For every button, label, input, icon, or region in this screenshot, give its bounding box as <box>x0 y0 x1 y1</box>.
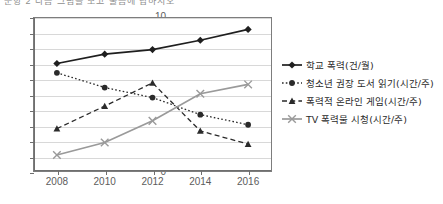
legend-item-3[interactable]: TV 폭력물 시청(시간/주) <box>281 110 441 127</box>
data-point-circle <box>245 122 251 128</box>
x-axis-label: 2008 <box>37 176 77 187</box>
data-point-diamond <box>245 26 252 33</box>
page-caption: 문항 2 다음 그림을 보고 물음에 답하시오 <box>4 0 204 6</box>
legend-label: TV 폭력물 시청(시간/주) <box>303 112 407 126</box>
x-axis-label: 2010 <box>85 176 125 187</box>
data-point-diamond <box>149 46 156 53</box>
legend-item-0[interactable]: 학교 폭력(건/월) <box>281 56 441 73</box>
data-point-triangle <box>245 141 252 147</box>
data-series-layer <box>33 17 272 172</box>
data-point-diamond <box>288 61 295 68</box>
data-point-triangle <box>149 79 156 85</box>
data-point-triangle <box>197 128 204 134</box>
data-point-circle <box>289 80 295 86</box>
series-line <box>57 83 248 144</box>
data-point-circle <box>54 70 60 76</box>
data-point-diamond <box>101 51 108 58</box>
data-point-triangle <box>101 103 108 109</box>
x-axis-label: 2014 <box>180 176 220 187</box>
chart-screenshot: 문항 2 다음 그림을 보고 물음에 답하시오 012345678910 200… <box>0 0 443 204</box>
legend-label: 청소년 권장 도서 읽기(시간/주) <box>303 76 434 90</box>
legend-marker-x-icon <box>281 112 303 126</box>
data-point-circle <box>102 85 108 91</box>
data-point-x <box>149 117 157 125</box>
legend-marker-triangle-icon <box>281 94 303 108</box>
data-point-triangle <box>54 125 61 131</box>
legend-item-1[interactable]: 청소년 권장 도서 읽기(시간/주) <box>281 74 441 91</box>
x-axis-label: 2016 <box>228 176 268 187</box>
legend-marker-diamond-icon <box>281 58 303 72</box>
series-1 <box>54 70 251 128</box>
chart-legend: 학교 폭력(건/월)청소년 권장 도서 읽기(시간/주)폭력적 온라인 게임(시… <box>281 56 441 128</box>
data-point-diamond <box>53 60 60 67</box>
legend-label: 학교 폭력(건/월) <box>303 58 374 72</box>
data-point-circle <box>197 112 203 118</box>
legend-label: 폭력적 온라인 게임(시간/주) <box>303 94 422 108</box>
legend-marker-circle-icon <box>281 76 303 90</box>
y-axis-tick <box>30 173 34 174</box>
data-point-circle <box>150 95 156 101</box>
series-0 <box>53 26 251 67</box>
legend-item-2[interactable]: 폭력적 온라인 게임(시간/주) <box>281 92 441 109</box>
x-axis-label: 2012 <box>133 176 173 187</box>
data-point-diamond <box>197 37 204 44</box>
